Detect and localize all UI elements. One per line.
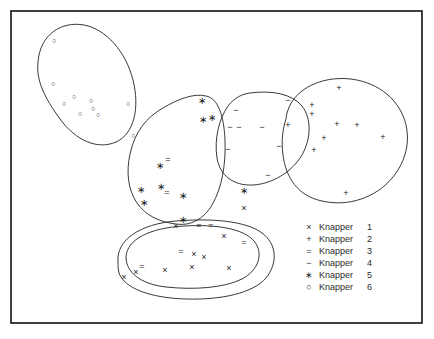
legend-number-4: 4 [367, 258, 372, 268]
data-point-star-6: ∗ [140, 197, 148, 208]
data-point-plus-5: + [354, 120, 359, 130]
data-point-plus-6: + [321, 133, 326, 143]
data-point-plus-9: + [343, 188, 348, 198]
legend-label-4: Knapper [319, 258, 353, 268]
data-point-circle-7: ○ [96, 111, 100, 118]
data-point-equals-3: = [139, 261, 144, 271]
data-point-star-5: ∗ [137, 184, 145, 195]
data-point-x-7: × [133, 267, 138, 277]
data-point-equals-6: = [241, 237, 246, 247]
data-point-x-8: × [226, 263, 231, 273]
data-point-minus-6: − [225, 144, 230, 154]
data-point-circle-6: ○ [78, 110, 82, 117]
data-point-star-9: ∗ [240, 185, 248, 196]
data-point-plus-3: + [285, 120, 290, 130]
data-point-plus-8: + [380, 132, 385, 142]
data-point-star-4: ∗ [157, 181, 165, 192]
data-point-equals-1: = [164, 187, 169, 197]
data-point-minus-7: − [265, 170, 270, 180]
legend-label-5: Knapper [319, 270, 353, 280]
data-point-plus-0: + [336, 83, 341, 93]
data-point-x-1: × [241, 203, 246, 213]
plot-frame [11, 11, 422, 323]
data-point-circle-5: ○ [91, 105, 95, 112]
legend-number-2: 2 [367, 234, 372, 244]
series-plus: ++++++++++ [285, 83, 385, 198]
data-point-equals-5: = [208, 220, 213, 230]
data-point-x-9: × [121, 272, 126, 282]
data-point-circle-0: ○ [52, 37, 56, 44]
data-point-minus-3: − [259, 122, 264, 132]
data-point-minus-0: − [233, 105, 238, 115]
minus-marker-icon: − [306, 258, 311, 268]
cluster-knapper-4-outline [216, 92, 309, 185]
data-point-equals-4: = [196, 220, 201, 230]
asterisk-marker-icon: ∗ [305, 270, 313, 280]
data-point-star-0: ∗ [198, 95, 206, 106]
legend-number-5: 5 [367, 270, 372, 280]
data-point-equals-2: = [178, 246, 183, 256]
data-point-circle-1: ○ [51, 80, 55, 87]
data-point-circle-4: ○ [89, 97, 93, 104]
data-point-circle-3: ○ [72, 93, 76, 100]
data-point-star-2: ∗ [208, 112, 216, 123]
data-point-star-3: ∗ [156, 160, 164, 171]
cross-marker-icon: × [306, 222, 311, 232]
data-point-x-5: × [189, 262, 194, 272]
cluster-knapper-1-outer-outline [118, 220, 274, 299]
data-point-minus-5: − [276, 141, 281, 151]
cluster-scatter-figure: ××××××××××++++++++++=======−−−−−−−−∗∗∗∗∗… [0, 0, 434, 339]
data-point-star-8: ∗ [179, 214, 187, 225]
data-point-x-2: × [221, 231, 226, 241]
legend-label-1: Knapper [319, 222, 353, 232]
data-point-layer: ××××××××××++++++++++=======−−−−−−−−∗∗∗∗∗… [51, 37, 386, 283]
equals-marker-icon: = [306, 246, 311, 256]
data-point-circle-8: ○ [126, 100, 130, 107]
data-point-minus-2: − [236, 122, 241, 132]
data-point-star-7: ∗ [179, 190, 187, 201]
legend: ×Knapper1+Knapper2=Knapper3−Knapper4∗Kna… [305, 222, 372, 292]
legend-number-6: 6 [367, 282, 372, 292]
data-point-circle-2: ○ [62, 100, 66, 107]
circle-marker-icon: ○ [306, 282, 311, 292]
data-point-minus-1: − [227, 122, 232, 132]
data-point-plus-2: + [309, 109, 314, 119]
legend-label-6: Knapper [319, 282, 353, 292]
legend-number-1: 1 [367, 222, 372, 232]
data-point-plus-7: + [311, 145, 316, 155]
cluster-knapper-2-outline [282, 79, 407, 203]
data-point-plus-4: + [334, 119, 339, 129]
data-point-x-3: × [191, 249, 196, 259]
data-point-equals-0: = [165, 154, 170, 164]
data-point-x-0: × [173, 221, 178, 231]
data-point-x-4: × [201, 252, 206, 262]
plus-marker-icon: + [306, 234, 311, 244]
data-point-star-1: ∗ [199, 114, 207, 125]
legend-label-2: Knapper [319, 234, 353, 244]
series-minus: −−−−−−−− [225, 95, 290, 180]
data-point-circle-9: ○ [131, 132, 135, 139]
legend-number-3: 3 [367, 246, 372, 256]
legend-label-3: Knapper [319, 246, 353, 256]
data-point-x-6: × [162, 265, 167, 275]
data-point-minus-4: − [285, 95, 290, 105]
